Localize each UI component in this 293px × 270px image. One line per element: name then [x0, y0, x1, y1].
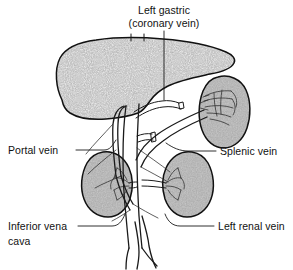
- right-kidney-texture: [78, 146, 138, 224]
- label-inferior-vena-cava-line2: cava: [8, 235, 30, 247]
- spleen-texture: [195, 70, 255, 155]
- anatomy-figure: Left gastric (coronary vein) Portal vein…: [0, 0, 293, 270]
- label-portal-vein: Portal vein: [8, 144, 58, 156]
- label-inferior-vena-cava: Inferior vena cava: [8, 220, 67, 247]
- left-gastric-vein-ligature: [179, 102, 184, 109]
- label-left-renal-vein: Left renal vein: [218, 220, 285, 232]
- spleen-organ: [195, 70, 255, 155]
- label-inferior-vena-cava-line1: Inferior vena: [8, 220, 67, 232]
- label-left-gastric-line2: (coronary vein): [129, 17, 200, 29]
- label-left-gastric-line1: Left gastric: [138, 4, 190, 16]
- right-kidney-organ: [78, 146, 138, 224]
- tributary-stub-lower: [138, 140, 153, 142]
- left-iliac-branch: [126, 248, 129, 269]
- collateral-lower-right: [133, 204, 158, 218]
- portal-venous-system-diagram: Left gastric (coronary vein) Portal vein…: [0, 0, 293, 270]
- left-kidney-organ: [158, 146, 218, 224]
- inferior-vena-cava-right-wall: [137, 104, 142, 248]
- leader-splenic-vein: [166, 143, 216, 151]
- collateral-right-lower: [137, 148, 170, 172]
- iliac-bifurcation-midline: [135, 222, 139, 269]
- tributary-stub-upper: [137, 134, 152, 136]
- label-splenic-vein: Splenic vein: [220, 145, 277, 157]
- label-left-gastric: Left gastric (coronary vein): [129, 4, 200, 29]
- collateral-left-upper: [86, 124, 113, 154]
- right-renal-vein-upper: [129, 182, 137, 183]
- left-kidney-texture: [158, 146, 218, 224]
- leader-portal-vein: [76, 140, 116, 150]
- right-iliac-branch: [142, 216, 156, 268]
